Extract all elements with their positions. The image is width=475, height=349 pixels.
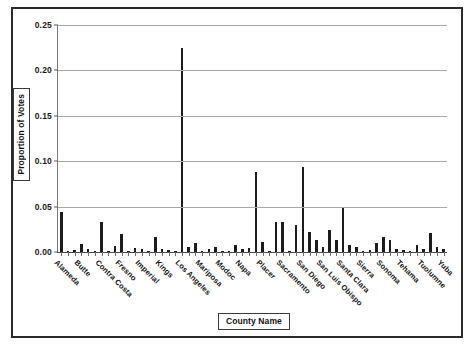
x-axis-tick-mark xyxy=(397,252,398,256)
bar xyxy=(348,245,351,252)
y-axis-tick-label: 0.05 xyxy=(35,202,52,212)
y-axis-tick-mark xyxy=(54,206,58,207)
x-axis-tick-mark xyxy=(195,252,196,256)
x-axis-tick-mark xyxy=(256,252,257,256)
bar xyxy=(154,237,157,252)
x-axis-tick-mark xyxy=(330,252,331,256)
bar xyxy=(100,222,103,252)
bar xyxy=(382,237,385,252)
x-axis-tick-mark xyxy=(108,252,109,256)
x-axis-tick-mark xyxy=(323,252,324,256)
x-axis-tick-mark xyxy=(222,252,223,256)
bar xyxy=(60,212,63,252)
x-axis-tick-mark xyxy=(296,252,297,256)
y-axis-tick-label: 0.25 xyxy=(35,20,52,30)
x-axis-tick-mark xyxy=(162,252,163,256)
x-axis-tick-mark xyxy=(115,252,116,256)
plot-area: 0.000.050.100.150.200.25 xyxy=(57,25,447,253)
x-axis-tick-mark xyxy=(417,252,418,256)
bar xyxy=(375,243,378,252)
x-axis-tick-mark xyxy=(102,252,103,256)
x-axis-tick-mark xyxy=(303,252,304,256)
x-axis-tick-mark xyxy=(383,252,384,256)
x-axis-tick-mark xyxy=(310,252,311,256)
x-axis-tick-mark xyxy=(269,252,270,256)
x-axis-tick-mark xyxy=(444,252,445,256)
x-axis-tick-mark xyxy=(356,252,357,256)
bar xyxy=(389,240,392,252)
x-axis-tick-mark xyxy=(236,252,237,256)
x-axis-tick-mark xyxy=(276,252,277,256)
bar xyxy=(181,48,184,252)
x-axis-tick-mark xyxy=(263,252,264,256)
bar xyxy=(342,208,345,252)
bar xyxy=(261,242,264,252)
y-axis-tick-label: 0.00 xyxy=(35,247,52,257)
y-axis-title-label: Proportion of Votes xyxy=(16,94,26,175)
x-axis-tick-mark xyxy=(336,252,337,256)
chart-figure: Proportion of Votes 0.000.050.100.150.20… xyxy=(0,0,475,349)
bar xyxy=(234,245,237,252)
bar xyxy=(275,222,278,252)
bar xyxy=(194,243,197,252)
x-axis-tick-mark xyxy=(81,252,82,256)
y-axis-tick-mark xyxy=(54,115,58,116)
bar xyxy=(308,232,311,252)
y-axis-tick-mark xyxy=(54,70,58,71)
x-axis-tick-mark xyxy=(61,252,62,256)
x-axis-tick-label: Placer xyxy=(254,258,277,281)
x-axis-tick-mark xyxy=(149,252,150,256)
bar xyxy=(295,225,298,252)
bar xyxy=(429,233,432,252)
bar xyxy=(255,172,258,252)
x-axis-tick-mark xyxy=(75,252,76,256)
x-axis-tick-mark xyxy=(390,252,391,256)
x-axis-tick-mark xyxy=(169,252,170,256)
gridline xyxy=(58,116,447,117)
x-axis-tick-mark xyxy=(283,252,284,256)
x-axis-tick-mark xyxy=(377,252,378,256)
y-axis-tick-mark xyxy=(54,161,58,162)
x-axis-tick-mark xyxy=(229,252,230,256)
x-axis-tick-mark xyxy=(88,252,89,256)
bar xyxy=(281,222,284,252)
x-axis-tick-mark xyxy=(403,252,404,256)
x-axis-tick-mark xyxy=(216,252,217,256)
x-axis-tick-mark xyxy=(135,252,136,256)
x-axis-tick-mark xyxy=(363,252,364,256)
y-axis-tick-label: 0.20 xyxy=(35,65,52,75)
gridline xyxy=(58,161,447,162)
bar xyxy=(328,230,331,252)
bar xyxy=(416,245,419,252)
x-axis-tick-mark xyxy=(182,252,183,256)
x-axis-tick-mark xyxy=(202,252,203,256)
x-axis-tick-mark xyxy=(209,252,210,256)
bars-layer xyxy=(58,25,447,252)
y-axis-title: Proportion of Votes xyxy=(13,88,30,181)
x-axis-tick-mark xyxy=(128,252,129,256)
x-axis-tick-mark xyxy=(189,252,190,256)
bar xyxy=(80,244,83,252)
x-axis-tick-mark xyxy=(122,252,123,256)
y-axis-tick-label: 0.10 xyxy=(35,156,52,166)
x-axis-tick-mark xyxy=(430,252,431,256)
x-axis-tick-mark xyxy=(410,252,411,256)
y-axis-tick-mark xyxy=(54,25,58,26)
x-axis-tick-labels: AlamedaButteContra CostaFresnoImperialKi… xyxy=(57,258,447,306)
gridline xyxy=(58,25,447,26)
x-axis-tick-mark xyxy=(68,252,69,256)
bar xyxy=(315,240,318,252)
bar xyxy=(120,234,123,252)
gridline xyxy=(58,207,447,208)
x-axis-tick-mark xyxy=(289,252,290,256)
x-axis-title: County Name xyxy=(218,313,290,330)
x-axis-tick-mark xyxy=(424,252,425,256)
x-axis-tick-mark xyxy=(155,252,156,256)
x-axis-tick-mark xyxy=(316,252,317,256)
x-axis-tick-mark xyxy=(142,252,143,256)
x-axis-tick-mark xyxy=(95,252,96,256)
x-axis-tick-mark xyxy=(437,252,438,256)
bar xyxy=(302,167,305,252)
bar xyxy=(335,240,338,252)
y-axis-tick-mark xyxy=(54,252,58,253)
